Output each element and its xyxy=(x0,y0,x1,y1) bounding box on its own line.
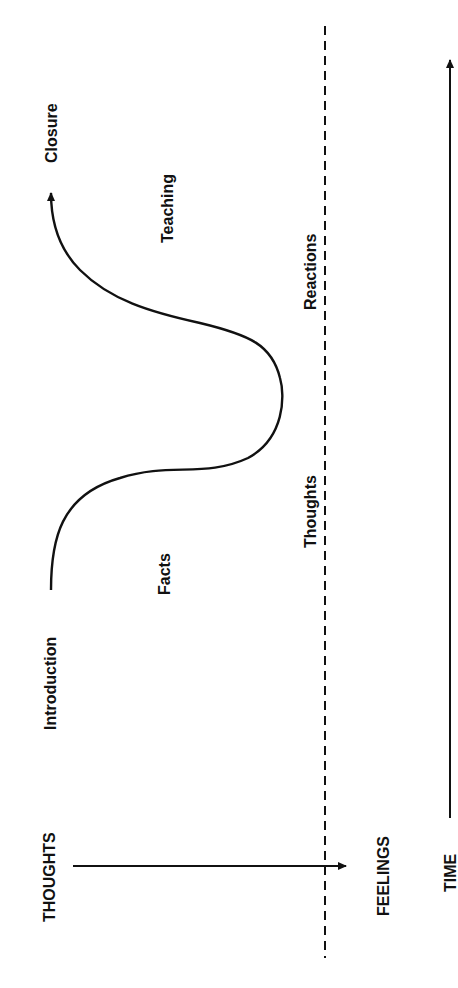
label-thoughts-axis: THOUGHTS xyxy=(41,832,58,922)
label-teaching: Teaching xyxy=(159,174,176,243)
label-facts: Facts xyxy=(156,553,173,595)
label-feelings-axis: FEELINGS xyxy=(375,836,392,916)
label-thoughts-divider: Thoughts xyxy=(302,475,319,548)
conversation-curve xyxy=(51,193,282,590)
label-introduction: Introduction xyxy=(42,637,59,730)
conversation-diagram: Closure Teaching Reactions Thoughts Fact… xyxy=(0,0,458,988)
label-reactions: Reactions xyxy=(302,233,319,310)
label-closure: Closure xyxy=(43,103,60,163)
label-time-axis: TIME xyxy=(442,853,458,892)
